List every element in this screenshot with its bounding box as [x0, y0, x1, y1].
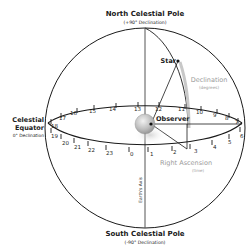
star-meridian-arc [145, 28, 188, 128]
svg-text:9: 9 [213, 112, 217, 118]
right-ascension-label: Right Ascension [160, 159, 212, 167]
south-pole-label: South Celestial Pole [105, 230, 184, 238]
observer-dot [149, 122, 152, 125]
svg-text:7: 7 [235, 119, 239, 125]
right-ascension-sublabel: (time) [192, 168, 205, 173]
svg-text:10: 10 [196, 109, 203, 115]
svg-text:19: 19 [51, 133, 58, 139]
svg-text:6: 6 [240, 133, 244, 139]
svg-text:2: 2 [173, 149, 177, 155]
south-pole-sublabel: (-90° Declination) [125, 240, 166, 245]
north-pole-sublabel: (+90° Declination) [123, 20, 166, 25]
star-dot [176, 59, 179, 62]
celestial-sphere-diagram: 18 17 16 15 14 13 12 11 10 9 8 7 19 20 2… [0, 0, 251, 252]
svg-text:5: 5 [228, 139, 232, 145]
svg-text:12: 12 [155, 106, 162, 112]
svg-text:8: 8 [225, 115, 229, 121]
svg-text:0: 0 [130, 151, 134, 157]
svg-text:15: 15 [89, 108, 96, 114]
svg-text:16: 16 [70, 110, 77, 116]
svg-text:17: 17 [59, 115, 66, 121]
earth-axis-label: Earth's Axis [138, 176, 143, 202]
svg-text:23: 23 [106, 150, 113, 156]
equator-label-line2: Equator [15, 124, 45, 132]
north-pole-label: North Celestial Pole [106, 10, 185, 18]
declination-label: Declination [191, 76, 228, 84]
equator-sublabel: 0° Declination [13, 133, 44, 138]
svg-text:14: 14 [109, 106, 116, 112]
observer-label: Observer [156, 115, 190, 123]
svg-text:22: 22 [88, 147, 95, 153]
svg-text:4: 4 [213, 144, 217, 150]
svg-text:13: 13 [134, 106, 141, 112]
star-label: Star [161, 57, 177, 65]
svg-text:21: 21 [74, 144, 81, 150]
svg-text:11: 11 [178, 106, 185, 112]
svg-text:1: 1 [150, 151, 154, 157]
equator-label-line1: Celestial [12, 116, 44, 124]
declination-sublabel: (degrees) [199, 85, 219, 90]
svg-text:3: 3 [194, 148, 198, 154]
svg-text:20: 20 [62, 140, 69, 146]
svg-text:18: 18 [51, 123, 58, 129]
